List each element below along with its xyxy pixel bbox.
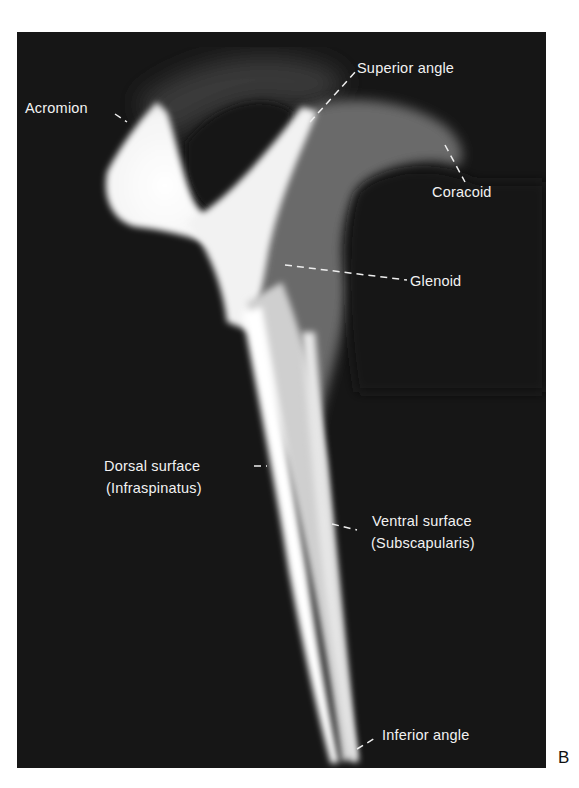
- label-subscapularis: (Subscapularis): [371, 535, 475, 552]
- radiograph-image: Acromion Superior angle Coracoid Glenoid…: [17, 32, 546, 768]
- label-infraspinatus: (Infraspinatus): [106, 480, 202, 497]
- label-dorsal-surface: Dorsal surface: [104, 458, 200, 475]
- ventral-surface-leader: [332, 524, 357, 530]
- label-glenoid: Glenoid: [410, 273, 461, 290]
- inferior-angle-leader: [357, 737, 377, 749]
- label-inferior-angle: Inferior angle: [382, 727, 469, 744]
- label-acromion: Acromion: [25, 100, 88, 117]
- label-coracoid: Coracoid: [432, 184, 492, 201]
- label-ventral-surface: Ventral surface: [372, 513, 472, 530]
- scapula-xray: [17, 32, 546, 768]
- label-superior-angle: Superior angle: [357, 60, 454, 77]
- panel-letter: B: [558, 748, 569, 768]
- acromion-leader: [115, 114, 127, 122]
